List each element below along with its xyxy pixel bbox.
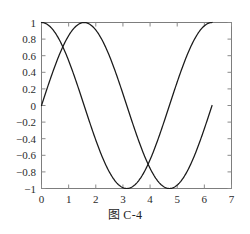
x-tick-label: 6 — [202, 194, 208, 205]
x-tick-label: 2 — [93, 194, 99, 205]
x-axis-ticks — [42, 23, 232, 189]
x-tick-label: 0 — [39, 194, 45, 205]
y-tick-label: 0.2 — [0, 83, 36, 94]
curve-sin — [42, 23, 213, 189]
plot-axes-box — [42, 23, 232, 189]
x-tick-label: 4 — [147, 194, 153, 205]
x-tick-label: 7 — [229, 194, 235, 205]
y-tick-label: 0.4 — [0, 67, 36, 78]
y-tick-label: 0.8 — [0, 34, 36, 45]
y-tick-label: −0.6 — [0, 150, 36, 161]
y-tick-label: −1 — [0, 183, 36, 194]
x-tick-label: 1 — [66, 194, 72, 205]
y-axis-ticks — [42, 23, 232, 189]
x-tick-label: 3 — [120, 194, 126, 205]
y-tick-label: 0.6 — [0, 50, 36, 61]
y-tick-label: 1 — [0, 17, 36, 28]
x-tick-label: 5 — [174, 194, 180, 205]
y-tick-label: −0.8 — [0, 166, 36, 177]
y-tick-label: −0.2 — [0, 117, 36, 128]
y-tick-label: −0.4 — [0, 133, 36, 144]
figure-caption: 图 C-4 — [0, 205, 250, 223]
figure-container: 10.80.60.40.20−0.2−0.4−0.6−0.8−1 0123456… — [0, 0, 250, 234]
y-tick-label: 0 — [0, 100, 36, 111]
